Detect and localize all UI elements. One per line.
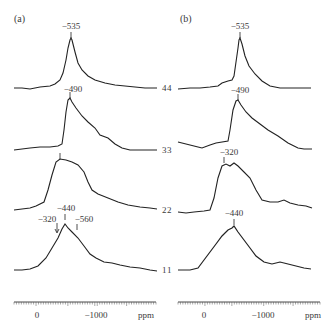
nmr-figure: (a) −535 4 −490 3 2 −440 −320 −560 1 0 −… bbox=[0, 0, 335, 335]
spectrum-trace-1 bbox=[14, 224, 157, 271]
trace-number: 2 bbox=[167, 205, 172, 215]
peak-label: −440 bbox=[225, 208, 244, 218]
trace-number: 3 bbox=[167, 145, 172, 155]
x-axis: 0 −1000 ppm bbox=[178, 302, 321, 320]
axis-unit: ppm bbox=[305, 310, 321, 320]
spectrum-trace-2 bbox=[178, 163, 312, 213]
spectrum-trace-2 bbox=[14, 159, 157, 210]
trace-number: 1 bbox=[167, 265, 172, 275]
peak-label: −490 bbox=[64, 84, 83, 94]
peak-label: −440 bbox=[57, 203, 76, 213]
tick-label: −1000 bbox=[251, 310, 275, 320]
tick-label: −1000 bbox=[84, 310, 108, 320]
x-axis: 0 −1000 ppm bbox=[14, 302, 156, 320]
spectrum-trace-1 bbox=[178, 226, 311, 270]
panel-label: (a) bbox=[14, 13, 25, 25]
axis-unit: ppm bbox=[138, 310, 154, 320]
tick-label: 0 bbox=[202, 310, 207, 320]
peak-label: −320 bbox=[220, 147, 239, 157]
panel-a: (a) −535 4 −490 3 2 −440 −320 −560 1 0 −… bbox=[14, 13, 167, 320]
panel-b: (b) 4 −535 3 −490 2 −320 1 −440 0 −1000 … bbox=[167, 13, 321, 320]
spectrum-trace-3 bbox=[14, 98, 157, 150]
peak-label: −535 bbox=[62, 21, 81, 31]
trace-number: 1 bbox=[162, 265, 167, 275]
trace-number: 4 bbox=[167, 83, 172, 93]
spectrum-trace-4 bbox=[178, 38, 311, 89]
peak-label: −490 bbox=[231, 85, 250, 95]
tick-label: 0 bbox=[35, 310, 40, 320]
spectrum-trace-4 bbox=[14, 38, 157, 89]
peak-label: −560 bbox=[75, 214, 94, 224]
panel-label: (b) bbox=[180, 13, 192, 25]
spectrum-trace-3 bbox=[178, 100, 312, 149]
peak-label: −535 bbox=[231, 21, 250, 31]
trace-number: 2 bbox=[162, 205, 167, 215]
peak-label: −320 bbox=[38, 214, 57, 224]
